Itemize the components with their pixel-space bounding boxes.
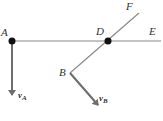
- label-vB: vB: [99, 93, 108, 105]
- label-F: F: [125, 0, 133, 12]
- label-E: E: [148, 25, 156, 37]
- label-vA: vA: [18, 90, 27, 102]
- joint-D-dot: [105, 38, 112, 45]
- velocity-vector-B-arrow: [70, 73, 98, 105]
- label-B: B: [59, 66, 66, 78]
- label-D: D: [95, 25, 104, 37]
- linkage-diagram: A D E F B vA vB: [0, 0, 163, 121]
- line-BF: [70, 13, 139, 73]
- joint-A-dot: [9, 38, 16, 45]
- label-A: A: [0, 26, 8, 38]
